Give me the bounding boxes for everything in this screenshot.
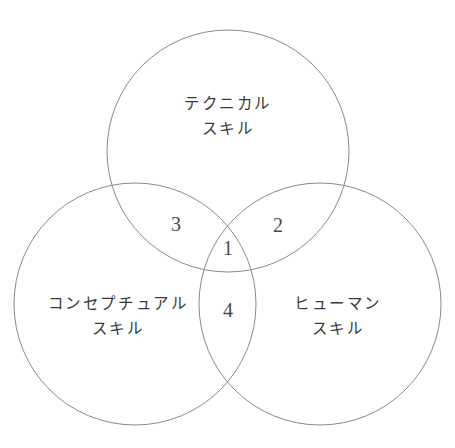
label-layer: テクニカル スキル コンセプチュアル スキル ヒューマン スキル 1 2 3 4 [0, 0, 455, 448]
circle-label-technical: テクニカル スキル [184, 92, 272, 142]
circle-label-conceptual: コンセプチュアル スキル [48, 292, 189, 342]
circle-label-conceptual-line2: スキル [48, 317, 189, 342]
region-number-technical-human: 2 [273, 215, 283, 235]
circle-label-conceptual-line1: コンセプチュアル [48, 292, 189, 317]
region-number-technical-conceptual: 3 [171, 214, 181, 234]
circle-label-human-line1: ヒューマン [294, 292, 382, 317]
region-number-center-all-three: 1 [223, 238, 233, 258]
venn-diagram: テクニカル スキル コンセプチュアル スキル ヒューマン スキル 1 2 3 4 [0, 0, 455, 448]
circle-label-technical-line2: スキル [184, 117, 272, 142]
circle-label-technical-line1: テクニカル [184, 92, 272, 117]
region-number-conceptual-human: 4 [223, 300, 233, 320]
circle-label-human-line2: スキル [294, 317, 382, 342]
circle-label-human: ヒューマン スキル [294, 292, 382, 342]
